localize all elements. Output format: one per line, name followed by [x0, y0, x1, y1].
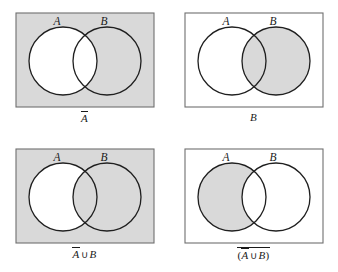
caption-token-b: B	[259, 249, 266, 261]
caption-token-union: ∪	[79, 250, 89, 260]
venn-diagram-figure: A B A A B	[0, 0, 338, 272]
caption-token-union: ∪	[248, 251, 258, 261]
shaded-region-universe-minus-a-only	[16, 149, 154, 243]
caption-token-a-overline: A	[81, 111, 88, 124]
set-label-a: A	[52, 15, 61, 27]
shaded-region-a-only	[185, 149, 323, 243]
venn-panel-a-complement-union-b: A B A∪B	[0, 136, 169, 272]
caption-token-b: B	[90, 248, 97, 260]
caption-expression: B	[250, 108, 257, 123]
set-label-b: B	[100, 15, 107, 27]
caption-expression: A	[81, 108, 88, 124]
set-label-a: A	[221, 151, 230, 163]
shaded-region-universe-minus-a	[16, 13, 154, 107]
set-label-b: B	[100, 151, 107, 163]
set-label-a: A	[52, 151, 61, 163]
venn-panel-complement-of-a-complement-union-b: A B (A∪B)	[169, 136, 338, 272]
panel-caption-b: B	[169, 108, 338, 134]
venn-panel-b: A B B	[169, 0, 338, 136]
caption-expression: A∪B	[72, 244, 96, 260]
panel-caption-a-complement-union-b: A∪B	[0, 244, 169, 270]
venn-panel-a-complement: A B A	[0, 0, 169, 136]
panel-caption-a-complement: A	[0, 108, 169, 134]
set-label-b: B	[269, 15, 276, 27]
caption-outer-overline-group: (A∪B)	[238, 247, 270, 261]
set-label-b: B	[269, 151, 276, 163]
caption-token-b: B	[250, 111, 257, 123]
set-label-a: A	[221, 15, 230, 27]
panel-caption-complement-of-a-complement-union-b: (A∪B)	[169, 244, 338, 270]
caption-token-close-paren: )	[266, 249, 270, 261]
caption-expression: (A∪B)	[238, 244, 270, 261]
